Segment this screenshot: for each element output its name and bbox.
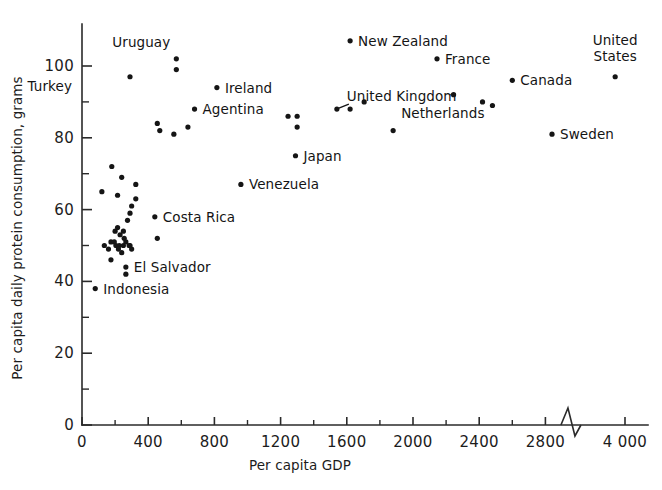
data-point <box>490 103 495 108</box>
data-point <box>155 236 160 241</box>
data-point <box>115 225 120 230</box>
data-point <box>119 175 124 180</box>
data-point <box>106 246 111 251</box>
data-point <box>119 250 124 255</box>
data-point <box>125 218 130 223</box>
data-point <box>133 196 138 201</box>
data-label-indonesia: Indonesia <box>103 281 169 297</box>
data-label-ireland: Ireland <box>225 80 272 96</box>
data-point <box>99 189 104 194</box>
x-axis-title: Per capita GDP <box>249 457 351 473</box>
data-point <box>108 257 113 262</box>
data-point-united-kingdom <box>334 106 339 111</box>
data-point-venezuela <box>238 182 243 187</box>
data-point <box>133 182 138 187</box>
data-point <box>121 229 126 234</box>
y-tick-label-0: 0 <box>64 416 74 434</box>
data-label-el-salvador: El Salvador <box>134 259 211 275</box>
data-label-united-kingdom: United Kingdom <box>347 88 457 104</box>
data-point <box>174 67 179 72</box>
data-point <box>115 193 120 198</box>
data-label-agentina: Agentina <box>203 101 264 117</box>
data-label-sweden: Sweden <box>560 126 614 142</box>
y-tick-label-40: 40 <box>54 272 74 290</box>
scatter-chart-figure: 0400800120016002000240028004 000 0204060… <box>0 0 662 490</box>
data-point <box>157 128 162 133</box>
data-label-united-states: States <box>593 48 636 64</box>
data-point <box>171 132 176 137</box>
data-point-netherlands <box>391 128 396 133</box>
y-tick-label-60: 60 <box>54 201 74 219</box>
y-tick-label-100: 100 <box>44 57 74 75</box>
data-point <box>129 203 134 208</box>
y-tick-label-80: 80 <box>54 129 74 147</box>
x-tick-label-1200: 1200 <box>261 433 300 451</box>
data-point <box>102 243 107 248</box>
data-label-new-zealand: New Zealand <box>358 33 448 49</box>
data-point <box>285 114 290 119</box>
y-tick-label-20: 20 <box>54 344 74 362</box>
data-label-netherlands: Netherlands <box>401 105 484 121</box>
data-point-el-salvador <box>123 264 128 269</box>
x-tick-label-2000: 2000 <box>393 433 432 451</box>
x-tick-label-0: 0 <box>77 433 87 451</box>
data-label-france: France <box>445 51 491 67</box>
data-point <box>155 121 160 126</box>
x-tick-label-400: 400 <box>133 433 163 451</box>
data-point-indonesia <box>93 286 98 291</box>
x-tick-label-800: 800 <box>200 433 230 451</box>
x-tick-label-4000: 4 000 <box>603 433 647 451</box>
y-axis-title: Per capita daily protein consumption, gr… <box>9 76 25 379</box>
data-label-costa-rica: Costa Rica <box>163 209 235 225</box>
x-tick-label-2800: 2800 <box>526 433 565 451</box>
data-point-ireland <box>214 85 219 90</box>
data-label-turkey: Turkey <box>26 78 72 94</box>
data-point-france <box>434 56 439 61</box>
data-label-united-states: United <box>593 32 638 48</box>
x-tick-label-2400: 2400 <box>460 433 499 451</box>
data-label-japan: Japan <box>302 148 341 164</box>
x-axis-tick-labels: 0400800120016002000240028004 000 <box>77 433 647 451</box>
data-label-uruguay: Uruguay <box>112 34 170 50</box>
data-point <box>295 124 300 129</box>
data-point <box>123 272 128 277</box>
data-point-new-zealand <box>348 38 353 43</box>
data-point <box>348 106 353 111</box>
data-point-united-states <box>613 74 618 79</box>
data-point-japan <box>293 153 298 158</box>
data-point <box>109 164 114 169</box>
data-label-canada: Canada <box>520 72 572 88</box>
data-point-canada <box>510 78 515 83</box>
data-point-sweden <box>549 132 554 137</box>
chart-canvas: 0400800120016002000240028004 000 0204060… <box>0 0 662 490</box>
data-point-turkey <box>127 74 132 79</box>
x-tick-label-1600: 1600 <box>327 433 366 451</box>
data-point <box>295 114 300 119</box>
data-point <box>185 124 190 129</box>
data-point-costa-rica <box>152 214 157 219</box>
data-point-agentina <box>192 106 197 111</box>
data-point <box>127 243 132 248</box>
data-point <box>127 211 132 216</box>
data-point-uruguay <box>174 56 179 61</box>
data-label-venezuela: Venezuela <box>249 176 319 192</box>
